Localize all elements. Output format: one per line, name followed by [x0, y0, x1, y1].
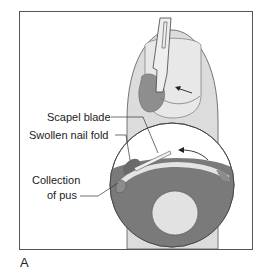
- nail-bed: [152, 191, 198, 235]
- label-collection-line1: Collection: [32, 174, 80, 186]
- panel-letter: A: [20, 255, 29, 270]
- label-collection-line2: of pus: [47, 189, 77, 201]
- magnified-view: [100, 123, 245, 250]
- label-swollen-nail-fold: Swollen nail fold: [29, 129, 109, 141]
- collection-of-pus: [116, 180, 126, 193]
- label-scalpel-blade: Scapel blade: [47, 111, 111, 123]
